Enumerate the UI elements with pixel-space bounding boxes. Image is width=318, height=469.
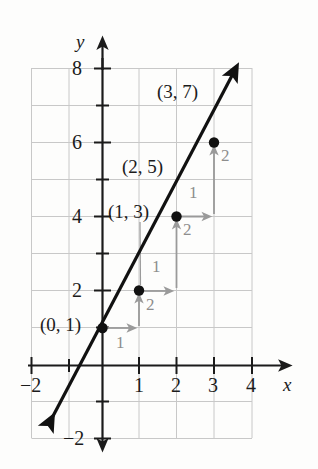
point-label-2-5: (2, 5) (122, 157, 163, 176)
x-tick-label-4: 4 (246, 375, 256, 395)
y-tick-label-4: 4 (72, 206, 82, 226)
x-tick-label-1: 1 (134, 375, 144, 395)
point-2-5 (171, 211, 181, 221)
y-axis-name: y (76, 32, 84, 51)
slope-run-label-2: 1 (152, 258, 161, 275)
x-tick-label-2: 2 (171, 375, 181, 395)
slope-rise-label-2: 2 (183, 221, 192, 238)
point-label-3-7: (3, 7) (157, 82, 198, 101)
point-1-3 (134, 285, 144, 295)
x-axis-name: x (283, 375, 291, 394)
slope-rise-label-3: 2 (221, 147, 230, 164)
y-tick-label-neg2: −2 (63, 428, 84, 448)
point-3-7 (209, 137, 219, 147)
figure-canvas: 8 6 4 2 −2 −2 1 2 3 4 y x (0, 1) (1, 3) … (0, 0, 318, 469)
x-tick-label-3: 3 (208, 375, 218, 395)
slope-run-label-1: 1 (116, 334, 125, 351)
y-tick-label-6: 6 (72, 132, 82, 152)
y-tick-label-2: 2 (72, 280, 82, 300)
point-0-1 (97, 323, 107, 333)
point-label-0-1: (0, 1) (40, 315, 81, 334)
point-label-1-3: (1, 3) (108, 202, 149, 221)
x-tick-label-neg2: −2 (20, 375, 41, 395)
slope-run-label-3: 1 (189, 184, 198, 201)
graph-svg (0, 0, 318, 469)
y-tick-label-8: 8 (72, 58, 82, 78)
slope-rise-label-1: 2 (146, 296, 155, 313)
